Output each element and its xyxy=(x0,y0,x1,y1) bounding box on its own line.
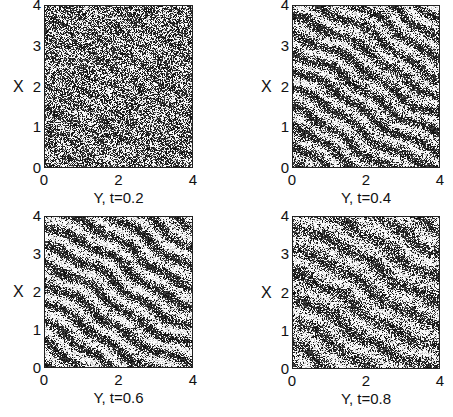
x-tick-label: 4 xyxy=(185,172,201,187)
density-scatter-canvas xyxy=(45,217,192,367)
x-tick-label: 2 xyxy=(358,373,374,388)
plot-area xyxy=(292,5,440,168)
y-tick-label: 1 xyxy=(29,322,41,337)
x-axis-label: Y, t=0.4 xyxy=(326,190,406,205)
x-tick-label: 4 xyxy=(185,372,201,387)
y-tick-label: 4 xyxy=(29,0,41,12)
y-tick-label: 2 xyxy=(29,284,41,299)
density-scatter-canvas xyxy=(45,6,192,167)
x-axis-label: Y, t=0.6 xyxy=(79,390,159,405)
x-axis-label: Y, t=0.2 xyxy=(79,190,159,205)
y-tick-label: 2 xyxy=(277,285,289,300)
plot-area xyxy=(44,5,193,168)
x-tick-label: 0 xyxy=(36,172,52,187)
y-tick-label: 1 xyxy=(29,119,41,134)
y-axis-label: X xyxy=(13,284,24,300)
y-tick-label: 2 xyxy=(29,79,41,94)
x-axis-label: Y, t=0.8 xyxy=(326,391,406,406)
y-axis-label: X xyxy=(261,79,272,95)
density-scatter-canvas xyxy=(293,217,439,368)
x-tick-label: 2 xyxy=(358,172,374,187)
y-tick-label: 2 xyxy=(277,79,289,94)
y-axis-label: X xyxy=(261,285,272,301)
x-tick-label: 2 xyxy=(111,372,127,387)
x-tick-label: 0 xyxy=(284,373,300,388)
x-tick-label: 4 xyxy=(432,373,448,388)
y-tick-label: 3 xyxy=(29,246,41,261)
x-tick-label: 4 xyxy=(432,172,448,187)
y-tick-label: 3 xyxy=(29,38,41,53)
y-tick-label: 1 xyxy=(277,119,289,134)
x-tick-label: 0 xyxy=(36,372,52,387)
x-tick-label: 2 xyxy=(111,172,127,187)
y-tick-label: 4 xyxy=(277,0,289,12)
y-tick-label: 3 xyxy=(277,246,289,261)
y-axis-label: X xyxy=(13,79,24,95)
y-tick-label: 4 xyxy=(277,208,289,223)
density-scatter-canvas xyxy=(293,6,439,167)
plot-area xyxy=(44,216,193,368)
x-tick-label: 0 xyxy=(284,172,300,187)
y-tick-label: 4 xyxy=(29,208,41,223)
y-tick-label: 1 xyxy=(277,323,289,338)
y-tick-label: 3 xyxy=(277,38,289,53)
plot-area xyxy=(292,216,440,369)
